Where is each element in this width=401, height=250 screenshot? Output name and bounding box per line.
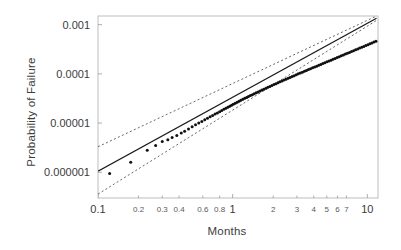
data-point: [154, 144, 157, 147]
x-tick-label: 1: [230, 203, 236, 215]
y-tick-label: 0.00001: [0, 117, 90, 129]
x-axis-title: Months: [147, 225, 307, 237]
y-tick-label: 0.000001: [0, 166, 90, 178]
x-tick-label: 4: [312, 205, 316, 214]
data-point: [203, 118, 206, 121]
data-point: [191, 125, 194, 128]
x-tick-label: 0.3: [157, 205, 168, 214]
data-point: [374, 40, 377, 43]
plot-frame: [98, 16, 378, 198]
data-point: [187, 127, 190, 130]
x-tick-label: 6: [335, 205, 339, 214]
x-tick-label: 5: [325, 205, 329, 214]
data-point: [161, 140, 164, 143]
data-point: [175, 134, 178, 137]
x-tick-label: 7: [344, 205, 348, 214]
x-tick-label: 3: [295, 205, 299, 214]
data-point: [146, 149, 149, 152]
x-tick-label: 10: [361, 203, 373, 215]
data-point: [183, 130, 186, 133]
data-point: [200, 120, 203, 123]
x-tick-label: 2: [271, 205, 275, 214]
x-tick-label: 0.1: [90, 203, 105, 215]
x-tick-label: 0.4: [174, 205, 185, 214]
data-point: [197, 122, 200, 125]
data-point: [129, 161, 132, 164]
data-point: [180, 131, 183, 134]
data-point: [166, 138, 169, 141]
chart-figure: Probability of Failure Months 0.0010.000…: [0, 0, 401, 250]
data-point: [194, 123, 197, 126]
data-point: [209, 115, 212, 118]
x-tick-label: 0.6: [197, 205, 208, 214]
data-point: [206, 117, 209, 120]
x-tick-label: 0.8: [214, 205, 225, 214]
y-tick-label: 0.001: [0, 19, 90, 31]
y-tick-label: 0.0001: [0, 68, 90, 80]
data-point: [171, 136, 174, 139]
x-tick-label: 0.2: [133, 205, 144, 214]
data-point: [108, 172, 111, 175]
